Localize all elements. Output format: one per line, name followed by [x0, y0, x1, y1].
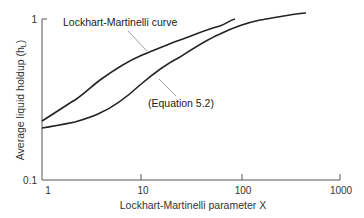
x-tick-label-10: 10: [137, 185, 149, 196]
y-axis-title-main: Average liquid holdup (h: [14, 47, 26, 160]
leader-line-eq: [159, 79, 176, 96]
annotation-equation-5-2: (Equation 5.2): [148, 97, 214, 109]
y-tick-label-1: 1: [31, 14, 37, 25]
annotation-lockhart-martinelli: Lockhart-Martinelli curve: [63, 16, 178, 28]
x-tick-label-100: 100: [235, 185, 252, 196]
y-axis-title: Average liquid holdup (hL): [14, 40, 27, 160]
y-axis-title-end: ): [14, 40, 26, 44]
y-tick-label-0.1: 0.1: [23, 175, 37, 186]
equation-5-2-curve: [42, 13, 306, 128]
svg-text:Average liquid holdup (hL): Average liquid holdup (hL): [14, 40, 27, 160]
leader-line-lm: [128, 31, 147, 51]
chart: 1 0.1 1 10 100 1000 Lockhart-Martinelli …: [0, 0, 364, 218]
x-tick-label-1: 1: [45, 185, 51, 196]
x-axis-title: Lockhart-Martinelli parameter X: [120, 199, 266, 211]
x-tick-label-1000: 1000: [330, 185, 353, 196]
